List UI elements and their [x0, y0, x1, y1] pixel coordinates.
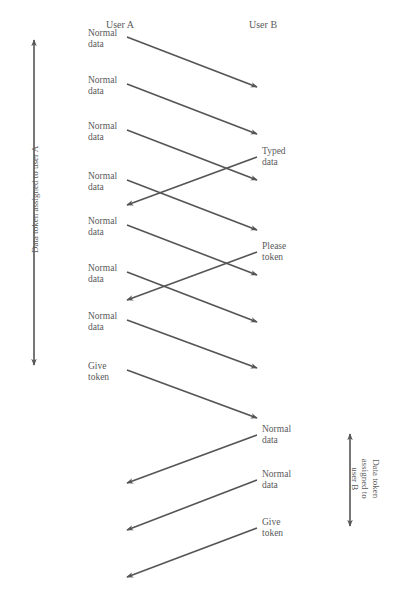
message-label: Normal data — [88, 28, 117, 50]
message-label: Give token — [262, 517, 283, 539]
message-label: Normal data — [88, 75, 117, 97]
message-label: Normal data — [88, 263, 117, 285]
message-label: Normal data — [88, 311, 117, 333]
message-arrow-a-to-b — [127, 84, 257, 134]
message-arrow-b-to-a — [127, 435, 257, 483]
message-label: Normal data — [262, 469, 291, 491]
message-label: Normal data — [88, 121, 117, 143]
message-label: Normal data — [262, 424, 291, 446]
message-arrow-a-to-b — [127, 370, 257, 418]
message-arrows — [127, 37, 257, 577]
user-a-token-label: Data token assigned to user A — [30, 119, 41, 279]
message-arrow-b-to-a — [127, 157, 257, 205]
message-arrow-b-to-a — [127, 252, 257, 300]
user-b-token-label: Data token assigned to user B — [349, 449, 381, 509]
sequence-diagram — [0, 0, 402, 592]
message-label: Normal data — [88, 216, 117, 238]
message-label: Please token — [262, 241, 286, 263]
message-label: Give token — [88, 361, 109, 383]
message-arrow-a-to-b — [127, 130, 257, 180]
message-label: Typed data — [262, 146, 286, 168]
message-arrow-b-to-a — [127, 480, 257, 530]
message-arrow-b-to-a — [127, 528, 257, 577]
message-arrow-a-to-b — [127, 180, 257, 230]
message-arrow-a-to-b — [127, 225, 257, 275]
message-arrow-a-to-b — [127, 272, 257, 322]
message-arrow-a-to-b — [127, 320, 257, 368]
message-label: Normal data — [88, 171, 117, 193]
message-arrow-a-to-b — [127, 37, 257, 87]
